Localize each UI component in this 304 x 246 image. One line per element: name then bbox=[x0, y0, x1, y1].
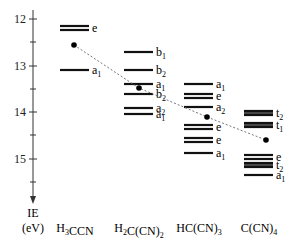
axis-tick-label: 15 bbox=[14, 152, 26, 166]
average-ie-dot bbox=[204, 114, 210, 120]
average-ie-dot bbox=[263, 137, 269, 143]
axis-label-ie: IE bbox=[27, 206, 38, 220]
average-ie-dot bbox=[136, 85, 142, 91]
molecule-label: C(CN)4 bbox=[241, 221, 278, 237]
axis-tick-label: 12 bbox=[14, 12, 26, 26]
axis-arrow-icon bbox=[30, 196, 36, 204]
level-symmetry-label: a2 bbox=[216, 100, 225, 116]
level-symmetry-label: e bbox=[216, 133, 221, 147]
level-symmetry-label: a1 bbox=[276, 168, 285, 184]
level-symmetry-label: a1 bbox=[92, 63, 101, 79]
level-symmetry-label: e bbox=[92, 21, 97, 35]
ionization-energy-diagram: 12131415IE(eV) ea1b1b2a1b2a2a1a1ea2eea1t… bbox=[0, 0, 304, 246]
molecule-label: HC(CN)3 bbox=[176, 221, 221, 237]
energy-levels: ea1b1b2a1b2a2a1a1ea2eea1t2t1et2a1 bbox=[60, 21, 285, 184]
level-symmetry-label: a1 bbox=[216, 146, 225, 162]
level-symmetry-label: b1 bbox=[156, 45, 166, 61]
molecule-labels: H3CCNH2C(CN)2HC(CN)3C(CN)4 bbox=[56, 221, 277, 240]
axis-tick-label: 14 bbox=[14, 105, 26, 119]
axis-tick-label: 13 bbox=[14, 59, 26, 73]
trend-line bbox=[74, 45, 266, 140]
molecule-label: H2C(CN)2 bbox=[114, 221, 163, 240]
ie-axis: 12131415IE(eV) bbox=[14, 10, 44, 235]
level-symmetry-label: e bbox=[216, 120, 221, 134]
average-ie-dot bbox=[71, 42, 77, 48]
average-trend-line bbox=[71, 42, 269, 143]
axis-label-unit: (eV) bbox=[22, 221, 44, 235]
molecule-label: H3CCN bbox=[56, 221, 94, 238]
